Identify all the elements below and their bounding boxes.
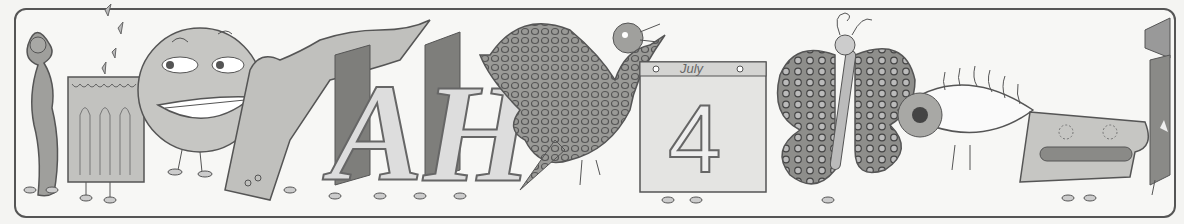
- candle: [68, 4, 144, 203]
- eye: [898, 66, 1033, 170]
- butterfly: [778, 13, 916, 203]
- calendar: July 4: [640, 61, 766, 203]
- woman-figure: [24, 33, 58, 196]
- illustration: AH July 4: [0, 0, 1184, 224]
- mouth-face: [1020, 112, 1148, 201]
- striped-figure: [1145, 18, 1170, 195]
- svg-text:4: 4: [668, 85, 721, 192]
- svg-text:July: July: [679, 61, 705, 76]
